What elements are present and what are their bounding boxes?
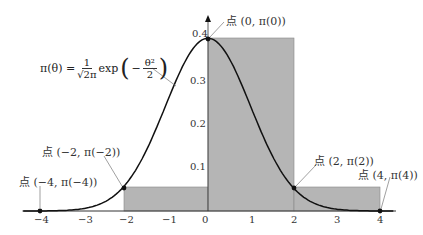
label-point-neg4: 点 (−4, π(−4)) xyxy=(19,173,97,189)
x-tick-3: 3 xyxy=(334,214,340,225)
point-4 xyxy=(378,209,383,214)
y-axis-arrow-icon xyxy=(205,15,211,22)
y-tick-0.3: 0.3 xyxy=(190,75,206,86)
formula-frac-num: 1 xyxy=(82,57,92,69)
leader-point-neg2 xyxy=(104,156,122,186)
point-2 xyxy=(292,186,297,191)
label-point-4: 点 (4, π(4)) xyxy=(358,166,418,182)
x-tick-1: 1 xyxy=(249,214,255,225)
formula-exp: exp xyxy=(98,62,118,75)
x-tick-neg3: −3 xyxy=(78,214,93,225)
density-formula: π(θ) = 1 √2π exp ( − θ² 2 ) xyxy=(40,56,168,80)
label-point-0: 点 (0, π(0)) xyxy=(226,12,286,28)
leader-point-0 xyxy=(210,22,224,37)
point-neg4 xyxy=(38,209,43,214)
x-tick-neg2: −2 xyxy=(119,214,134,225)
rect-left xyxy=(124,187,208,211)
x-tick-2: 2 xyxy=(291,214,297,225)
point-neg2 xyxy=(122,186,127,191)
y-tick-0.2: 0.2 xyxy=(190,118,206,129)
formula-inner-sign: − xyxy=(132,62,141,75)
rect-center xyxy=(208,38,294,211)
formula-fraction: 1 √2π xyxy=(77,57,96,80)
formula-lhs: π(θ) = xyxy=(40,62,75,75)
x-tick-neg4: −4 xyxy=(34,214,49,225)
formula-paren-open: ( xyxy=(120,56,129,80)
formula-frac-den: √2π xyxy=(77,69,96,80)
x-tick-neg1: −1 xyxy=(162,214,177,225)
formula-inner-num: θ² xyxy=(143,57,157,69)
chart-canvas xyxy=(0,0,423,235)
label-point-neg2: 点 (−2, π(−2)) xyxy=(42,143,120,159)
leader-point-2 xyxy=(296,165,316,186)
y-tick-0.4: 0.4 xyxy=(192,28,208,39)
formula-paren-close: ) xyxy=(159,56,168,80)
formula-inner-den: 2 xyxy=(147,69,153,80)
x-tick-0: 0 xyxy=(202,214,208,225)
y-tick-0.1: 0.1 xyxy=(190,161,206,172)
formula-inner-fraction: θ² 2 xyxy=(143,57,157,80)
x-tick-4: 4 xyxy=(377,214,383,225)
